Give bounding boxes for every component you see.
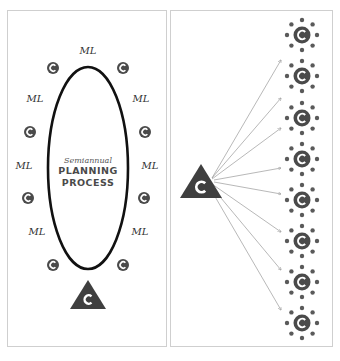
c-circle-icon	[117, 259, 129, 271]
semiannual-subtitle: Semiannual	[58, 156, 118, 165]
ml-label-left-3: ML	[29, 226, 46, 237]
ml-label-left-2: ML	[16, 160, 33, 171]
right-panel-distribution	[170, 10, 333, 347]
ml-label-right-2: ML	[142, 160, 159, 171]
ml-label-top: ML	[80, 45, 97, 56]
ml-label-left-1: ML	[27, 93, 44, 104]
process-title: PROCESS	[58, 177, 118, 189]
c-circle-icon	[24, 126, 36, 138]
ml-label-right-3: ML	[132, 226, 149, 237]
c-triangle-icon	[70, 280, 106, 309]
c-circle-icon	[139, 126, 151, 138]
c-circle-icon	[47, 62, 59, 74]
c-circle-icon	[117, 62, 129, 74]
ml-label-right-1: ML	[133, 93, 150, 104]
planning-process-label: Semiannual PLANNING PROCESS	[58, 156, 118, 189]
planning-title: PLANNING	[58, 165, 118, 177]
c-circle-icon	[22, 192, 34, 204]
c-circle-icon	[138, 192, 150, 204]
c-circle-icon	[47, 259, 59, 271]
